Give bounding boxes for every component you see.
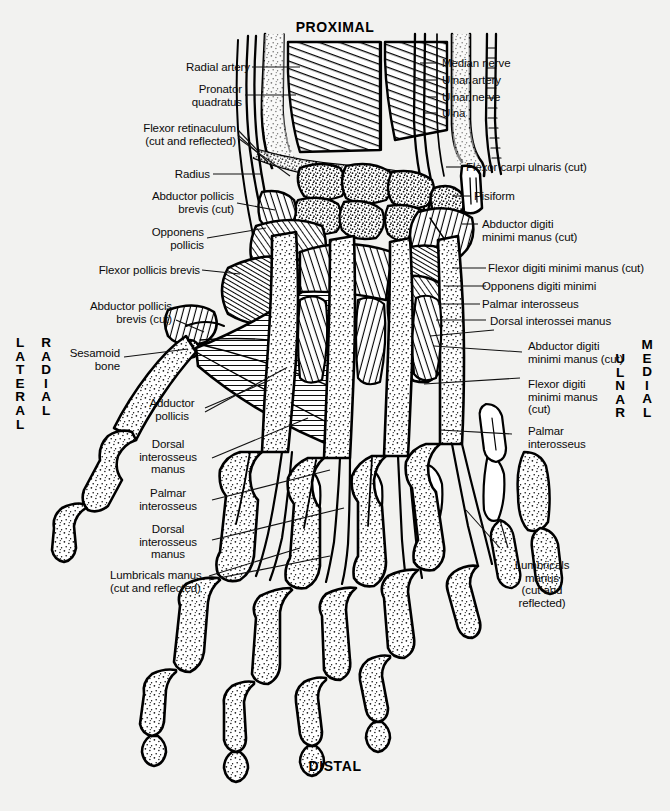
label-radial-artery: Radial artery bbox=[60, 61, 250, 74]
label-sesamoid-bone: Sesamoid bone bbox=[30, 347, 120, 372]
label-dorsal-interossei-manus: Dorsal interossei manus bbox=[490, 315, 670, 328]
label-ulna: Ulna bbox=[442, 107, 642, 120]
orientation-lateral: L A T E R A L bbox=[12, 336, 28, 431]
label-dorsal-interosseus-manus-upper: Dorsal interosseus manus bbox=[128, 438, 208, 476]
label-flexor-digiti-minimi-manus-cut-lower: Flexor digiti minimi manus (cut) bbox=[528, 378, 670, 416]
label-flexor-digiti-minimi-manus-cut: Flexor digiti minimi manus (cut) bbox=[488, 262, 670, 275]
label-ulnar-artery: Ulnar artery bbox=[442, 74, 642, 87]
label-abductor-pollicis-brevis-cut-upper: Abductor pollicis brevis (cut) bbox=[50, 190, 234, 215]
label-flexor-pollicis-brevis: Flexor pollicis brevis bbox=[40, 264, 200, 277]
label-median-nerve: Median nerve bbox=[442, 57, 642, 70]
page-title-distal: DISTAL bbox=[0, 758, 670, 774]
label-lumbricals-manus-right: Lumbricals manus (cut and reflected) bbox=[492, 559, 592, 609]
label-abductor-pollicis-brevis-cut-lower: Abductor pollicis brevis (cut) bbox=[20, 300, 172, 325]
label-opponens-pollicis: Opponens pollicis bbox=[60, 226, 204, 251]
label-lumbricals-manus-left: Lumbricals manus (cut and reflected) bbox=[110, 569, 310, 594]
label-abductor-digiti-minimi-manus-cut-lower: Abductor digiti minimi manus (cut) bbox=[528, 340, 670, 365]
label-dorsal-interosseus-manus-lower: Dorsal interosseus manus bbox=[128, 523, 208, 561]
page-title-proximal: PROXIMAL bbox=[0, 19, 670, 35]
label-palmar-interosseus-upper-right: Palmar interosseus bbox=[482, 298, 670, 311]
label-abductor-digiti-minimi-manus-cut-upper: Abductor digiti minimi manus (cut) bbox=[482, 218, 662, 243]
label-radius: Radius bbox=[60, 168, 210, 181]
label-flexor-carpi-ulnaris-cut: Flexor carpi ulnaris (cut) bbox=[466, 161, 670, 174]
label-pisiform: Pisiform bbox=[474, 190, 594, 203]
label-opponens-digiti-minimi: Opponens digiti minimi bbox=[482, 280, 670, 293]
label-adductor-pollicis: Adductor pollicis bbox=[138, 397, 206, 422]
anatomy-figure: PROXIMAL DISTAL L A T E R A L R A D I A … bbox=[0, 0, 670, 811]
label-flexor-retinaculum: Flexor retinaculum (cut and reflected) bbox=[36, 122, 236, 147]
label-palmar-interosseus-left: Palmar interosseus bbox=[128, 487, 208, 512]
label-ulnar-nerve: Ulnar nerve bbox=[442, 91, 642, 104]
label-pronator-quadratus: Pronator quadratus bbox=[60, 83, 242, 108]
label-palmar-interosseus-lower-right: Palmar interosseus bbox=[528, 425, 670, 450]
